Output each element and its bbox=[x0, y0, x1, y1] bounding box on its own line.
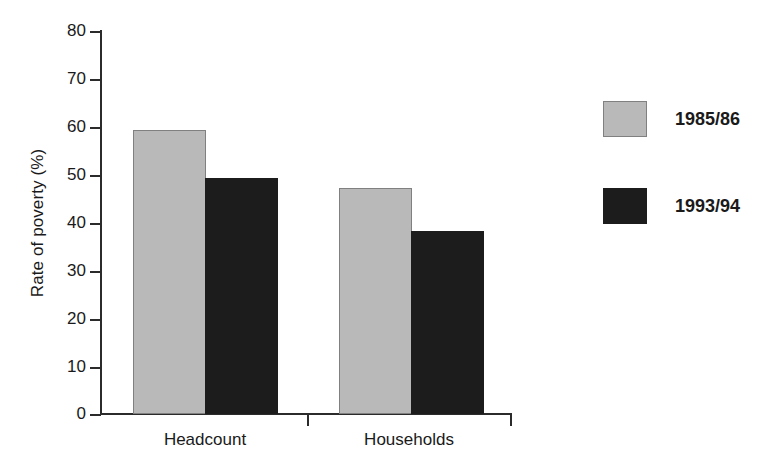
y-tick-label-60: 60 bbox=[32, 118, 86, 135]
x-tick-separator bbox=[307, 415, 309, 426]
y-tick-label-0: 0 bbox=[32, 405, 86, 422]
y-tick-label-20: 20 bbox=[32, 310, 86, 327]
y-tick-label-50: 50 bbox=[32, 166, 86, 183]
bar-chart-figure: Rate of poverty (%) 80 70 60 50 40 30 20… bbox=[0, 0, 764, 471]
legend-item-1993-94: 1993/94 bbox=[603, 188, 740, 224]
x-tick-label-headcount: Headcount bbox=[95, 430, 315, 450]
legend-swatch-1985-86-icon bbox=[603, 101, 647, 137]
y-tick-label-40: 40 bbox=[32, 214, 86, 231]
x-tick-label-households: Households bbox=[299, 430, 519, 450]
y-tick-label-10: 10 bbox=[32, 358, 86, 375]
y-tick-label-30: 30 bbox=[32, 262, 86, 279]
legend-item-1985-86: 1985/86 bbox=[603, 101, 740, 137]
legend-label-1993-94: 1993/94 bbox=[675, 196, 740, 217]
legend-label-1985-86: 1985/86 bbox=[675, 109, 740, 130]
y-tick-label-80: 80 bbox=[32, 22, 86, 39]
x-tick-end bbox=[510, 415, 512, 426]
bar-headcount-1985-86 bbox=[133, 130, 206, 414]
bar-headcount-1993-94 bbox=[205, 178, 278, 414]
bar-households-1993-94 bbox=[411, 231, 484, 414]
legend-swatch-1993-94-icon bbox=[603, 188, 647, 224]
bar-households-1985-86 bbox=[339, 188, 412, 414]
y-tick-label-70: 70 bbox=[32, 70, 86, 87]
